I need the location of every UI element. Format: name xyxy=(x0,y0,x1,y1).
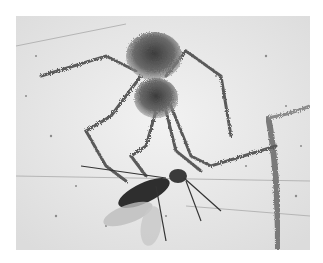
insect-head xyxy=(169,169,187,183)
spider-abdomen xyxy=(126,32,182,80)
spider-insect-illustration xyxy=(16,16,310,250)
spider-cephalothorax xyxy=(134,78,178,118)
photograph xyxy=(16,16,310,250)
